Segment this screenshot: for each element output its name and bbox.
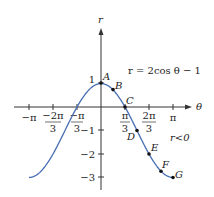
point-label-b: B <box>114 80 122 91</box>
point-label-d: D <box>126 131 135 142</box>
point-label-e: E <box>150 142 159 153</box>
x-tick-2pi3-num: 2π <box>143 110 156 121</box>
theta-axis-arrow-icon <box>185 105 192 110</box>
y-tick-neg1: −1 <box>80 125 95 136</box>
point-label-a: A <box>102 71 110 82</box>
polar-function-graph: θ r −π −2π 3 −π 3 π 3 2π 3 π 1 −1 −2 −3 <box>0 0 214 197</box>
y-tick-neg2: −2 <box>80 149 95 160</box>
point-label-g: G <box>175 169 183 180</box>
equation-label: r = 2cos θ − 1 <box>128 65 201 76</box>
x-tick-pi: π <box>170 112 177 123</box>
y-tick-neg3: −3 <box>80 172 95 183</box>
x-tick-neg-pi3-den: 3 <box>74 123 80 134</box>
point-label-c: C <box>126 95 134 106</box>
x-tick-2pi3-den: 3 <box>146 123 152 134</box>
r-axis-arrow-icon <box>99 28 104 35</box>
point-label-f: F <box>161 159 170 170</box>
y-tick-1: 1 <box>89 74 95 85</box>
theta-axis-label: θ <box>196 101 202 112</box>
annotation-r-negative: r<0 <box>170 132 190 143</box>
x-tick-neg-2pi3-num: −2π <box>42 110 64 121</box>
x-tick-neg-pi: −π <box>22 112 37 123</box>
r-axis-label: r <box>98 14 104 25</box>
x-tick-neg-2pi3-den: 3 <box>50 123 56 134</box>
point-d <box>135 129 139 133</box>
